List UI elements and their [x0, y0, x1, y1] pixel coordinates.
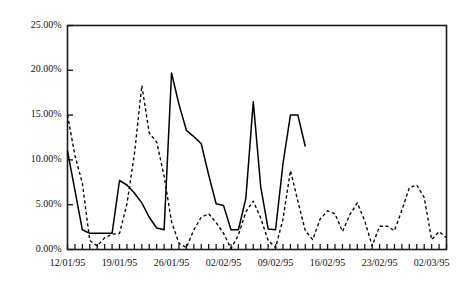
y-axis-tick-label: 10.00%	[31, 153, 62, 164]
y-axis-ticks	[68, 26, 74, 250]
x-axis-tick-label: 02/02/95	[206, 257, 242, 268]
y-axis-tick-label: 20.00%	[31, 63, 62, 74]
x-axis-tick-label: 19/01/95	[102, 257, 138, 268]
x-axis-tick-label: 16/02/95	[310, 257, 346, 268]
solid-series-line	[68, 73, 306, 233]
x-axis-tick-label: 12/01/95	[50, 257, 86, 268]
x-axis-tick-label: 26/01/95	[154, 257, 190, 268]
y-axis-tick-label: 0.00%	[36, 243, 62, 254]
x-axis-tick-label: 23/02/95	[362, 257, 398, 268]
x-axis-tick-label: 02/03/95	[414, 257, 450, 268]
y-axis-tick-label: 5.00%	[36, 198, 62, 209]
x-axis-tick-label: 09/02/95	[258, 257, 294, 268]
line-chart-plot	[0, 0, 471, 288]
y-axis-tick-label: 25.00%	[31, 19, 62, 30]
y-axis-tick-label: 15.00%	[31, 108, 62, 119]
chart-container: 0.00%5.00%10.00%15.00%20.00%25.00% 12/01…	[0, 0, 471, 288]
x-axis-ticks	[68, 244, 447, 250]
dashed-series-line	[68, 86, 447, 249]
